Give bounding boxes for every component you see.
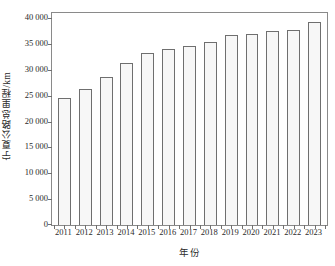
bar-slot: [221, 13, 242, 225]
y-tick-mark: [48, 147, 52, 148]
bar: [225, 35, 238, 225]
bar-slot: [54, 13, 75, 225]
y-tick-mark: [48, 122, 52, 123]
bar-slot: [283, 13, 304, 225]
y-tick-mark: [48, 44, 52, 45]
y-tick-mark: [48, 199, 52, 200]
y-tick-mark: [48, 224, 52, 225]
bar-slot: [96, 13, 117, 225]
bar: [58, 98, 71, 225]
bar: [246, 34, 259, 225]
x-tick-label: 2019: [222, 228, 239, 237]
x-tick-label: 2017: [180, 228, 197, 237]
x-tick-label: 2011: [55, 228, 72, 237]
bar-slot: [75, 13, 96, 225]
bar: [287, 30, 300, 225]
y-tick-mark: [48, 18, 52, 19]
y-tick-mark: [48, 173, 52, 174]
y-axis-title-text: 宁夏公路总里程/km: [3, 72, 13, 160]
x-tick-label: 2015: [138, 228, 155, 237]
bar-slot: [179, 13, 200, 225]
y-axis-tick-labels: 05 00010 00015 00020 00025 00030 00035 0…: [14, 0, 50, 266]
x-tick-label: 2012: [76, 228, 93, 237]
x-tick-label: 2013: [97, 228, 114, 237]
bar: [266, 31, 279, 225]
x-tick-label: 2022: [284, 228, 301, 237]
bar: [308, 22, 321, 225]
x-tick-label: 2014: [117, 228, 134, 237]
x-axis-tick-labels: 2011201220132014201520162017201820192020…: [51, 228, 328, 242]
x-tick-label: 2016: [159, 228, 176, 237]
y-tick-label: 25 000: [25, 90, 48, 99]
bar-slot: [158, 13, 179, 225]
y-tick-label: 20 000: [25, 116, 48, 125]
y-tick-label: 40 000: [25, 13, 48, 22]
bar-slot: [117, 13, 138, 225]
bar: [79, 89, 92, 226]
x-tick-label: 2021: [263, 228, 280, 237]
y-tick-label: 30 000: [25, 65, 48, 74]
bar-slot: [200, 13, 221, 225]
bar: [162, 49, 175, 225]
bar-slot: [262, 13, 283, 225]
bar: [141, 53, 154, 225]
chart-figure: 宁夏公路总里程/km 05 00010 00015 00020 00025 00…: [0, 0, 335, 266]
y-tick-mark: [48, 96, 52, 97]
bar: [100, 77, 113, 225]
x-tick-label: 2023: [305, 228, 322, 237]
x-tick-label: 2020: [243, 228, 260, 237]
bar-slot: [242, 13, 263, 225]
y-tick-label: 15 000: [25, 142, 48, 151]
x-axis-title: 年份: [51, 245, 328, 259]
bar: [183, 46, 196, 225]
bar-slot: [137, 13, 158, 225]
y-tick-label: 35 000: [25, 39, 48, 48]
y-tick-label: 5 000: [29, 194, 48, 203]
bar-slot: [304, 13, 325, 225]
y-tick-label: 10 000: [25, 168, 48, 177]
bar: [120, 63, 133, 225]
x-tick-label: 2018: [201, 228, 218, 237]
bar-series: [52, 13, 327, 225]
plot-area: [51, 12, 328, 226]
bar: [204, 42, 217, 225]
y-tick-mark: [48, 70, 52, 71]
